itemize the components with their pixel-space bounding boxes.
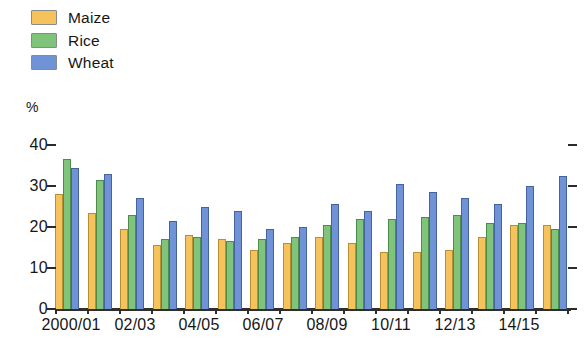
- bar-group: [445, 100, 469, 309]
- bar-maize: [445, 250, 453, 309]
- bar-group: [348, 100, 372, 309]
- x-axis-tick-mark: [311, 309, 313, 314]
- bar-wheat: [266, 229, 274, 309]
- bar-group: [185, 100, 209, 309]
- x-axis-tick-label-04-05: 04/05: [178, 316, 219, 334]
- bar-rice: [388, 219, 396, 309]
- x-axis-tick-mark: [151, 309, 153, 314]
- bar-rice: [551, 229, 559, 309]
- bar-wheat: [429, 192, 437, 309]
- bar-wheat: [169, 221, 177, 309]
- y-axis-tick-mark-20: [47, 226, 56, 228]
- x-axis-tick-mark: [439, 309, 441, 314]
- x-axis-tick-mark: [407, 309, 409, 314]
- bar-wheat: [234, 211, 242, 309]
- bar-maize: [250, 250, 258, 309]
- right-axis-tick-mark-10: [568, 267, 577, 269]
- x-axis-tick-label-10-11: 10/11: [371, 316, 411, 334]
- y-axis-tick-label-20: 20: [30, 218, 48, 236]
- bar-group: [380, 100, 404, 309]
- bar-group: [250, 100, 274, 309]
- bar-group: [543, 100, 567, 309]
- x-axis-tick-mark: [375, 309, 377, 314]
- right-axis-tick-mark-0: [568, 308, 577, 310]
- x-axis-tick-mark: [119, 309, 121, 314]
- bar-rice: [193, 237, 201, 309]
- bar-rice: [453, 215, 461, 309]
- bar-maize: [88, 213, 96, 309]
- bar-rice: [226, 241, 234, 309]
- bar-groups: [55, 100, 567, 309]
- bar-wheat: [136, 198, 144, 309]
- bar-maize: [55, 194, 63, 309]
- y-axis: 403020100: [0, 0, 60, 342]
- right-axis-tick-mark-20: [568, 226, 577, 228]
- bar-wheat: [364, 211, 372, 309]
- bar-maize: [510, 225, 518, 309]
- bar-group: [218, 100, 242, 309]
- y-axis-tick-label-10: 10: [30, 259, 48, 277]
- bar-wheat: [331, 204, 339, 309]
- bar-group: [283, 100, 307, 309]
- bar-group: [88, 100, 112, 309]
- bar-group: [315, 100, 339, 309]
- bar-wheat: [104, 174, 112, 309]
- x-axis-tick-label-2000-01: 2000/01: [41, 316, 100, 334]
- bar-maize: [348, 243, 356, 309]
- bar-rice: [486, 223, 494, 309]
- bar-maize: [120, 229, 128, 309]
- right-axis-tick-mark-40: [568, 144, 577, 146]
- x-axis-tick-mark: [471, 309, 473, 314]
- bar-group: [478, 100, 502, 309]
- right-axis-tick-mark-30: [568, 185, 577, 187]
- bar-maize: [543, 225, 551, 309]
- y-axis-tick-mark-40: [47, 144, 56, 146]
- x-axis-tick-mark: [183, 309, 185, 314]
- y-axis-tick-label-40: 40: [30, 136, 48, 154]
- x-axis-labels: 2000/0102/0304/0506/0708/0910/1112/1314/…: [55, 316, 571, 340]
- bar-rice: [421, 217, 429, 309]
- bar-group: [120, 100, 144, 309]
- bar-group: [55, 100, 79, 309]
- x-axis-tick-label-12-13: 12/13: [434, 316, 475, 334]
- x-axis-ticks: [55, 309, 567, 314]
- x-axis-tick-mark: [247, 309, 249, 314]
- bar-wheat: [299, 227, 307, 309]
- x-axis-tick-mark: [279, 309, 281, 314]
- bar-wheat: [461, 198, 469, 309]
- y-axis-tick-mark-30: [47, 185, 56, 187]
- bar-chart: % 403020100 2000/0102/0304/0506/0708/091…: [0, 0, 584, 342]
- x-axis-tick-mark: [87, 309, 89, 314]
- bar-wheat: [526, 186, 534, 309]
- x-axis-tick-label-14-15: 14/15: [498, 316, 539, 334]
- x-axis-tick-label-02-03: 02/03: [114, 316, 155, 334]
- bar-wheat: [201, 207, 209, 310]
- bar-maize: [185, 235, 193, 309]
- y-axis-tick-mark-0: [47, 308, 56, 310]
- bar-group: [413, 100, 437, 309]
- bar-rice: [291, 237, 299, 309]
- x-axis-tick-label-06-07: 06/07: [242, 316, 283, 334]
- bar-rice: [96, 180, 104, 309]
- bar-maize: [283, 243, 291, 309]
- bar-wheat: [396, 184, 404, 309]
- x-axis-tick-mark: [503, 309, 505, 314]
- bar-maize: [478, 237, 486, 309]
- bar-rice: [63, 159, 71, 309]
- bar-group: [153, 100, 177, 309]
- y-axis-tick-mark-10: [47, 267, 56, 269]
- bar-rice: [356, 219, 364, 309]
- bar-rice: [258, 239, 266, 309]
- bar-wheat: [559, 176, 567, 309]
- x-axis-tick-label-08-09: 08/09: [306, 316, 347, 334]
- bar-rice: [128, 215, 136, 309]
- bar-maize: [153, 245, 161, 309]
- y-axis-tick-label-30: 30: [30, 177, 48, 195]
- bar-rice: [518, 223, 526, 309]
- bar-maize: [218, 239, 226, 309]
- x-axis-tick-mark: [535, 309, 537, 314]
- bar-maize: [413, 252, 421, 309]
- bar-group: [510, 100, 534, 309]
- bar-rice: [323, 225, 331, 309]
- x-axis-tick-mark: [215, 309, 217, 314]
